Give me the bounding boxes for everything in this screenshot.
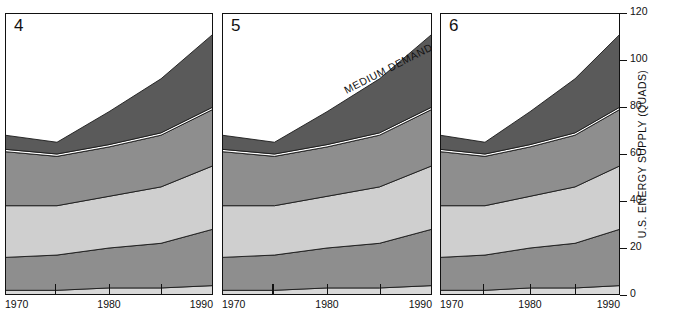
panel-4-area-plot — [5, 13, 213, 295]
y-tick-mark — [620, 248, 627, 249]
x-label-1970: 1970 — [440, 298, 463, 310]
x-label-1970: 1970 — [222, 298, 245, 310]
x-label-1980: 1980 — [315, 298, 338, 310]
x-label-1980: 1980 — [97, 298, 120, 310]
y-axis-title: U.S. ENERGY SUPPLY (QUADS) — [636, 13, 650, 295]
x-label-1980: 1980 — [518, 298, 541, 310]
y-tick-mark — [620, 201, 627, 202]
x-label-1970: 1970 — [5, 298, 28, 310]
panel-4-number: 4 — [14, 17, 23, 34]
panel-6-area-plot — [440, 13, 620, 295]
x-label-1990: 1990 — [190, 298, 213, 310]
panel-5-number: 5 — [231, 17, 240, 34]
chart-panel-6: 6 — [440, 13, 620, 295]
chart-panel-5: 5 MEDIUM DEMAND — [222, 13, 432, 295]
panel-5-x-labels: 1970 1980 1990 — [222, 298, 432, 314]
y-tick-label: 0 — [630, 288, 636, 299]
x-label-1990: 1990 — [409, 298, 432, 310]
y-tick-mark — [620, 13, 627, 14]
y-tick-mark — [620, 295, 627, 296]
panel-4-x-labels: 1970 1980 1990 — [5, 298, 213, 314]
y-tick-mark — [620, 154, 627, 155]
energy-supply-figure: 4 1970 1980 1990 5 MEDIUM DEMAND 1970 19… — [0, 0, 676, 321]
chart-panel-4: 4 — [5, 13, 213, 295]
panel-6-x-ticks — [440, 284, 620, 295]
panel-6-number: 6 — [449, 17, 458, 34]
panel-4-x-ticks — [5, 284, 213, 295]
panel-6-x-labels: 1970 1980 1990 — [440, 298, 620, 314]
y-tick-mark — [620, 107, 627, 108]
x-label-1990: 1990 — [597, 298, 620, 310]
panel-5-x-ticks — [222, 284, 432, 295]
y-tick-mark — [620, 60, 627, 61]
